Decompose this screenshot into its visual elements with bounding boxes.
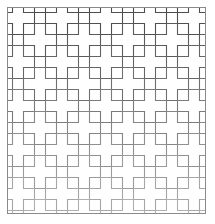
tessellation-canvas — [0, 0, 215, 224]
tessellation-figure — [0, 0, 215, 224]
